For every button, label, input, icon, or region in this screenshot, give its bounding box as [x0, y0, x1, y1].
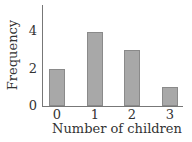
y-tick-4: 4: [27, 24, 37, 38]
bar-0: [49, 69, 65, 106]
x-tick-0: 0: [49, 108, 65, 122]
x-tick-3: 3: [162, 108, 178, 122]
bar-chart: Frequency 0 2 4 0 1 2 3 Number of childr…: [0, 0, 192, 142]
y-axis-label: Frequency: [6, 20, 20, 90]
x-axis: [42, 106, 183, 107]
y-axis: [42, 5, 43, 107]
bar-2: [124, 50, 140, 106]
x-tick-2: 2: [124, 108, 140, 122]
x-tick-1: 1: [87, 108, 103, 122]
x-axis-label: Number of children: [42, 121, 192, 136]
bar-3: [162, 87, 178, 106]
bar-1: [87, 32, 103, 106]
y-tick-0: 0: [27, 99, 37, 113]
y-tick-2: 2: [27, 62, 37, 76]
